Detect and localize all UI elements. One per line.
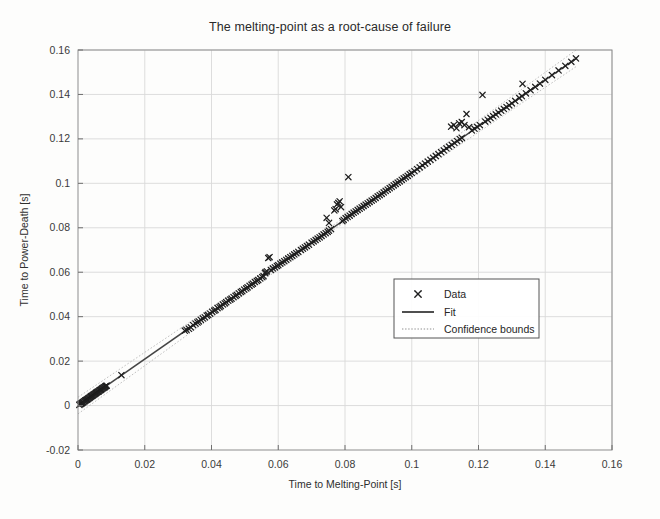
x-tick-label: 0 (75, 458, 81, 470)
data-point-marker (569, 59, 574, 64)
data-point-marker (464, 111, 469, 116)
x-tick-label: 0.16 (602, 458, 623, 470)
x-axis-title: Time to Melting-Point [s] (289, 478, 402, 490)
data-point-marker (346, 174, 351, 179)
data-point-marker (509, 101, 514, 106)
y-tick-label: 0.12 (50, 132, 71, 144)
confidence-bound-line (78, 49, 577, 397)
y-tick-label: 0.16 (50, 44, 71, 56)
axis-labels: 00.020.040.060.080.10.120.140.16-0.0200.… (18, 44, 622, 491)
data-point-marker (573, 56, 578, 61)
data-point-marker (533, 84, 538, 89)
scatter-plot: 00.020.040.060.080.10.120.140.16-0.0200.… (0, 0, 660, 519)
legend-item-label: Data (444, 288, 466, 300)
x-tick-label: 0.04 (201, 458, 222, 470)
data-point-marker (537, 81, 542, 86)
y-tick-label: 0.02 (50, 355, 71, 367)
data-point-marker (520, 81, 525, 86)
y-tick-label: 0.04 (50, 310, 71, 322)
y-tick-label: 0 (64, 399, 70, 411)
data-point-marker (556, 68, 561, 73)
confidence-bound-line (78, 66, 577, 414)
y-tick-label: 0.14 (50, 88, 71, 100)
grid-lines (78, 50, 612, 450)
y-axis-title: Time to Power-Death [s] (18, 194, 30, 307)
x-tick-label: 0.02 (135, 458, 156, 470)
y-tick-label: 0.1 (55, 177, 70, 189)
data-point-marker (337, 199, 342, 204)
data-point-marker (459, 135, 464, 140)
y-tick-label: -0.02 (46, 444, 70, 456)
legend-item-label: Fit (444, 306, 456, 318)
y-tick-label: 0.06 (50, 266, 71, 278)
data-point-marker (119, 372, 124, 377)
x-tick-label: 0.06 (268, 458, 289, 470)
x-tick-label: 0.14 (535, 458, 556, 470)
legend-item-label: Confidence bounds (444, 323, 535, 335)
data-point-marker (326, 220, 331, 225)
data-point-marker (563, 63, 568, 68)
y-tick-label: 0.08 (50, 221, 71, 233)
data-point-marker (324, 215, 329, 220)
figure-canvas: The melting-point as a root-cause of fai… (0, 0, 660, 519)
x-tick-label: 0.12 (468, 458, 489, 470)
legend[interactable]: DataFitConfidence bounds (394, 279, 539, 338)
x-tick-label: 0.1 (404, 458, 419, 470)
data-point-marker (549, 72, 554, 77)
x-tick-label: 0.08 (335, 458, 356, 470)
data-point-marker (477, 122, 482, 127)
